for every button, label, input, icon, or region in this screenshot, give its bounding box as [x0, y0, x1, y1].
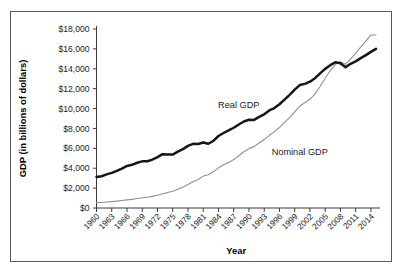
y-tick-label: $16,000 [58, 44, 89, 54]
x-axis-ticks: 1960196319661969197219751978198119841987… [81, 208, 376, 231]
y-tick-label: $6,000 [63, 143, 90, 153]
y-tick-label: $4,000 [63, 163, 90, 173]
chart-figure: $0$2,000$4,000$6,000$8,000$10,000$12,000… [0, 0, 403, 278]
y-tick-label: $10,000 [58, 104, 89, 114]
y-tick-label: $14,000 [58, 64, 89, 74]
gdp-line-chart: $0$2,000$4,000$6,000$8,000$10,000$12,000… [11, 12, 390, 260]
y-tick-label: $2,000 [63, 183, 90, 193]
y-tick-label: $18,000 [58, 24, 89, 34]
y-axis-title: GDP (in billions of dollars) [17, 60, 28, 178]
nominal-gdp-line [97, 35, 377, 203]
chart-frame-border: $0$2,000$4,000$6,000$8,000$10,000$12,000… [10, 11, 392, 262]
y-axis-ticks: $0$2,000$4,000$6,000$8,000$10,000$12,000… [58, 24, 96, 213]
nominal-gdp-series-label: Nominal GDP [272, 147, 328, 157]
x-axis-title: Year [226, 245, 246, 256]
real-gdp-series-label: Real GDP [218, 100, 259, 110]
y-tick-label: $0 [80, 203, 90, 213]
y-tick-label: $12,000 [58, 84, 89, 94]
y-tick-label: $8,000 [63, 124, 90, 134]
x-tick-label: 2014 [356, 211, 376, 231]
